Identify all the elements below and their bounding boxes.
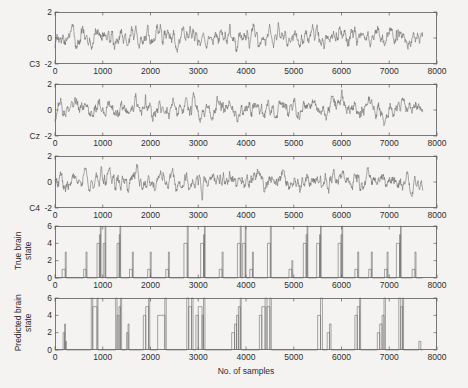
x-tick-label: 7000 <box>369 139 409 148</box>
axis-label-true-brain-state: True brainstate <box>14 216 34 286</box>
x-tick-label: 5000 <box>274 281 314 290</box>
x-tick-label: 8000 <box>417 67 457 76</box>
x-tick-label: 3000 <box>178 211 218 220</box>
y-tick-label: 0 <box>47 106 52 115</box>
x-tick-label: 6000 <box>322 211 362 220</box>
plot-box-predicted-brain-state <box>56 299 437 350</box>
x-tick-label: 1000 <box>83 211 123 220</box>
x-tick-label: 5000 <box>274 67 314 76</box>
x-tick-label: 5000 <box>274 139 314 148</box>
x-tick-label: 7000 <box>369 353 409 362</box>
y-tick-label: 2 <box>47 328 52 337</box>
axis-label-predicted-brain-state: Predicted brainstate <box>14 288 34 358</box>
state-step-true-brain-state <box>55 226 423 278</box>
x-tick-label: 8000 <box>417 211 457 220</box>
x-tick-label: 2000 <box>131 281 171 290</box>
x-tick-label: 4000 <box>226 67 266 76</box>
x-tick-label: 1000 <box>83 139 123 148</box>
x-tick-label: 8000 <box>417 281 457 290</box>
axis-label-line-2: state <box>24 288 34 358</box>
eeg-brain-state-figure: -202010002000300040005000600070008000C3-… <box>0 0 468 388</box>
y-tick-label: 0 <box>47 34 52 43</box>
x-tick-label: 4000 <box>226 281 266 290</box>
channel-label-C4: C4 <box>29 204 40 213</box>
channel-label-C3: C3 <box>29 60 40 69</box>
x-tick-label: 3000 <box>178 353 218 362</box>
y-tick-label: 4 <box>47 239 52 248</box>
y-tick-label: 2 <box>47 256 52 265</box>
eeg-trace-C4 <box>55 164 423 200</box>
x-tick-label: 4000 <box>226 353 266 362</box>
x-tick-label: 0 <box>35 281 75 290</box>
figure-canvas <box>0 0 468 388</box>
eeg-trace-Cz <box>55 90 423 126</box>
channel-label-Cz: Cz <box>30 132 40 141</box>
x-tick-label: 2000 <box>131 353 171 362</box>
y-tick-label: 4 <box>47 311 52 320</box>
x-tick-label: 3000 <box>178 139 218 148</box>
x-tick-label: 4000 <box>226 139 266 148</box>
x-tick-label: 2000 <box>131 67 171 76</box>
axis-label-line-2: state <box>24 216 34 286</box>
x-tick-label: 6000 <box>322 281 362 290</box>
x-tick-label: 1000 <box>83 281 123 290</box>
x-tick-label: 0 <box>35 139 75 148</box>
y-tick-label: 2 <box>47 80 52 89</box>
x-tick-label: 4000 <box>226 211 266 220</box>
x-tick-label: 3000 <box>178 281 218 290</box>
x-tick-label: 3000 <box>178 67 218 76</box>
x-tick-label: 8000 <box>417 139 457 148</box>
x-tick-label: 6000 <box>322 67 362 76</box>
x-tick-label: 0 <box>35 67 75 76</box>
x-tick-label: 1000 <box>83 353 123 362</box>
x-tick-label: 5000 <box>274 353 314 362</box>
y-tick-label: 2 <box>47 8 52 17</box>
x-tick-label: 8000 <box>417 353 457 362</box>
x-tick-label: 2000 <box>131 139 171 148</box>
x-axis-label: No. of samples <box>55 366 437 376</box>
x-tick-label: 7000 <box>369 281 409 290</box>
x-tick-label: 2000 <box>131 211 171 220</box>
y-tick-label: 6 <box>47 294 52 303</box>
x-tick-label: 6000 <box>322 353 362 362</box>
x-tick-label: 0 <box>35 211 75 220</box>
state-step-predicted-brain-state <box>55 298 423 350</box>
x-tick-label: 5000 <box>274 211 314 220</box>
x-tick-label: 7000 <box>369 67 409 76</box>
x-tick-label: 6000 <box>322 139 362 148</box>
eeg-trace-C3 <box>55 22 423 52</box>
x-tick-label: 0 <box>35 353 75 362</box>
y-tick-label: 2 <box>47 152 52 161</box>
x-tick-label: 1000 <box>83 67 123 76</box>
y-tick-label: 0 <box>47 178 52 187</box>
y-tick-label: 6 <box>47 222 52 231</box>
x-tick-label: 7000 <box>369 211 409 220</box>
